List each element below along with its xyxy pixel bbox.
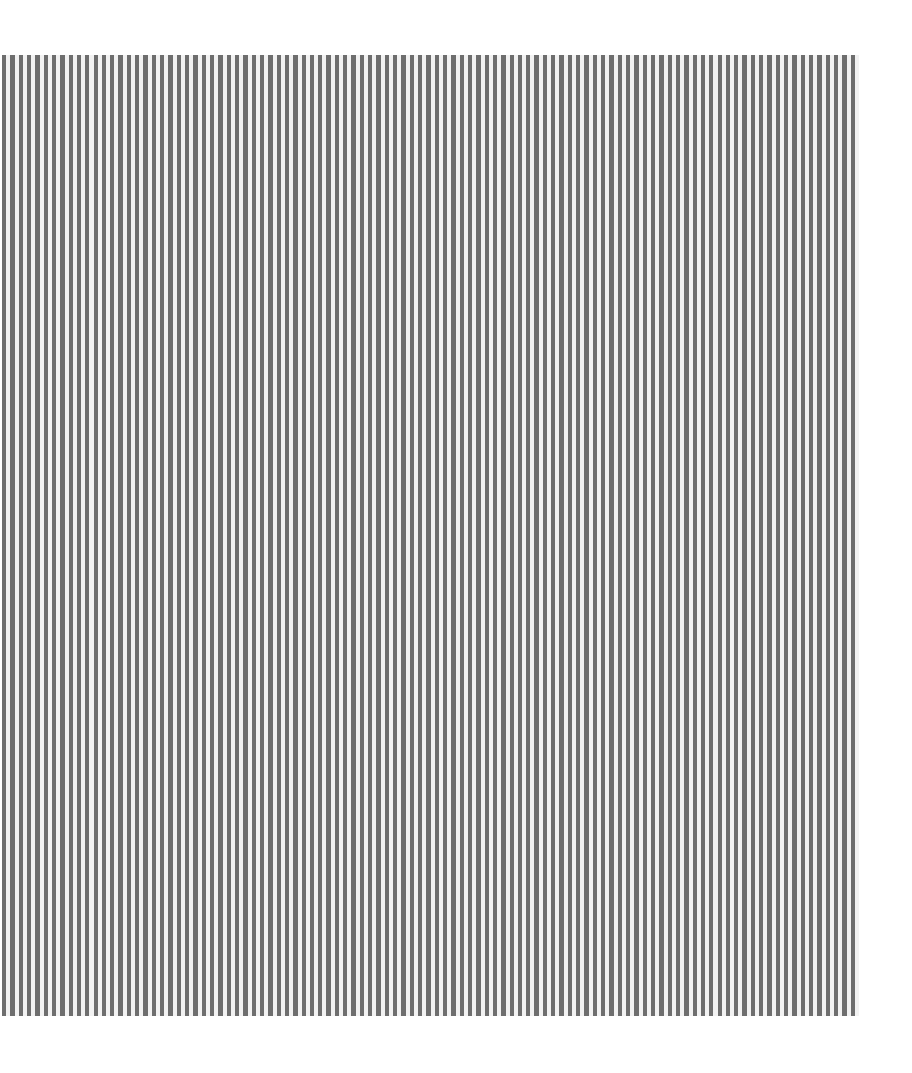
vertical-stripe-pattern bbox=[2, 55, 859, 1016]
